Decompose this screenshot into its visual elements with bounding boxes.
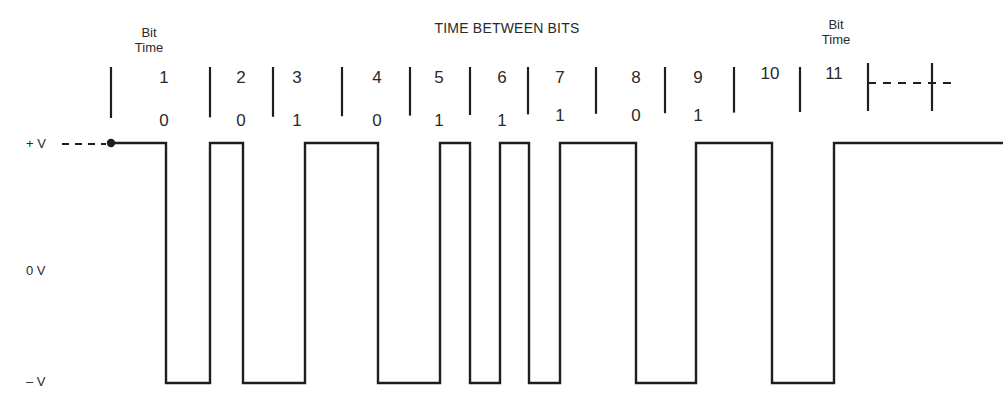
bit-index-label: 7 [555, 68, 564, 88]
bit-value-label: 0 [159, 111, 168, 131]
bit-value-label: 1 [434, 111, 443, 131]
bit-value-label: 0 [631, 106, 640, 126]
bit-index-label: 8 [631, 68, 640, 88]
bit-time-right-line1: Bit [822, 17, 850, 32]
bit-value-label: 1 [693, 106, 702, 126]
minus-v-label: – V [26, 374, 46, 389]
bit-index-label: 3 [292, 68, 301, 88]
bit-time-label-right: Bit Time [822, 17, 850, 47]
bit-time-left-line2: Time [135, 40, 163, 55]
bit-index-label: 2 [236, 68, 245, 88]
zero-v-label: 0 V [26, 263, 46, 278]
bit-boundary-ticks [111, 63, 932, 118]
bit-index-label: 5 [434, 68, 443, 88]
diagram-title: TIME BETWEEN BITS [435, 20, 580, 36]
bit-time-left-line1: Bit [135, 25, 163, 40]
signal-waveform [111, 143, 1003, 383]
bit-time-label-left: Bit Time [135, 25, 163, 55]
plus-v-label: + V [26, 136, 46, 151]
bit-value-label: 1 [497, 111, 506, 131]
bit-index-label: 9 [693, 68, 702, 88]
bit-value-label: 1 [292, 111, 301, 131]
bit-value-label: 0 [372, 111, 381, 131]
bit-index-label: 1 [159, 68, 168, 88]
bit-index-label: 11 [825, 64, 843, 84]
rs232-waveform-diagram [0, 0, 1008, 406]
bit-value-label: 0 [236, 111, 245, 131]
bit-index-label: 10 [761, 64, 780, 84]
bit-value-label: 1 [555, 106, 564, 126]
bit-index-label: 4 [372, 68, 381, 88]
bit-index-label: 6 [497, 68, 506, 88]
bit-time-right-line2: Time [822, 32, 850, 47]
